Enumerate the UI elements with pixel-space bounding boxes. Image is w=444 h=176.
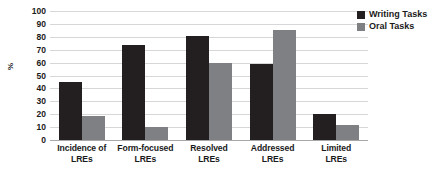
y-tick-label-80: 80 [2,33,46,42]
y-tick-label-70: 70 [2,46,46,55]
y-tick-label-40: 40 [2,84,46,93]
bar-groups [50,11,368,140]
x-tick-label-line: Incidence of [57,143,106,153]
x-tick-label-line: Addressed [251,143,295,153]
y-tick-label-50: 50 [2,72,46,81]
y-tick-label-0: 0 [2,136,46,145]
chart-legend: Writing TasksOral Tasks [357,10,427,31]
y-tick-label-100: 100 [2,7,46,16]
y-tick-label-90: 90 [2,20,46,29]
y-tick-label-60: 60 [2,59,46,68]
bar-writing[interactable] [313,114,336,140]
x-tick-label-line: Form-focused [117,143,173,153]
legend-label: Writing Tasks [369,10,427,19]
y-tick-label-20: 20 [2,110,46,119]
bar-writing[interactable] [250,64,273,140]
bar-writing[interactable] [186,36,209,140]
writing-swatch-icon [357,11,365,19]
gridline-0 [50,140,368,141]
bar-group [50,11,114,140]
bar-chart-figure: % 1009080706050403020100 Incidence ofLRE… [0,0,444,176]
bar-oral[interactable] [273,30,296,140]
y-axis-ticks: 1009080706050403020100 [0,11,46,140]
x-tick-label: LimitedLREs [304,143,368,164]
y-tick-label-30: 30 [2,97,46,106]
x-tick-label-line: LREs [114,154,178,165]
bar-writing[interactable] [122,45,145,140]
x-tick-label-line: LREs [50,154,114,165]
oral-swatch-icon [357,23,365,31]
bar-group [177,11,241,140]
x-tick-label: ResolvedLREs [177,143,241,164]
x-tick-label: Incidence ofLREs [50,143,114,164]
x-tick-label: AddressedLREs [241,143,305,164]
x-tick-label: Form-focusedLREs [114,143,178,164]
y-tick-label-10: 10 [2,123,46,132]
bar-writing[interactable] [59,82,82,140]
legend-item[interactable]: Oral Tasks [357,22,427,31]
legend-item[interactable]: Writing Tasks [357,10,427,19]
x-tick-label-line: Limited [321,143,351,153]
bar-oral[interactable] [336,125,359,140]
x-tick-label-line: Resolved [190,143,227,153]
x-tick-label-line: LREs [304,154,368,165]
bar-oral[interactable] [209,63,232,140]
x-tick-label-line: LREs [177,154,241,165]
bar-group [241,11,305,140]
bar-group [114,11,178,140]
x-axis-category-labels: Incidence ofLREsForm-focusedLREsResolved… [50,143,368,164]
x-tick-label-line: LREs [241,154,305,165]
bar-oral[interactable] [145,127,168,140]
bar-oral[interactable] [82,116,105,141]
legend-label: Oral Tasks [369,22,414,31]
